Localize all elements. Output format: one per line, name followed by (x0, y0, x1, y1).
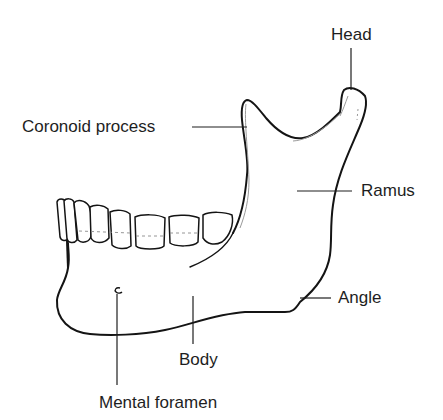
label-head: Head (331, 26, 372, 43)
label-mental-foramen: Mental foramen (99, 394, 217, 411)
teeth (57, 199, 233, 249)
label-coronoid-process: Coronoid process (22, 118, 155, 135)
tooth-molar-2 (169, 215, 199, 246)
label-ramus: Ramus (361, 182, 415, 199)
tooth-molar-3 (203, 212, 233, 244)
mandible-illustration (0, 0, 443, 420)
tooth-premolar-1 (90, 205, 109, 242)
mental-foramen-mark (115, 288, 122, 293)
label-angle: Angle (338, 289, 381, 306)
mandible-diagram: Head Coronoid process Ramus Angle Body M… (0, 0, 443, 420)
tooth-premolar-2 (110, 210, 131, 248)
tooth-molar-1 (135, 215, 165, 249)
condyle-mark (357, 109, 358, 120)
label-body: Body (179, 351, 218, 368)
